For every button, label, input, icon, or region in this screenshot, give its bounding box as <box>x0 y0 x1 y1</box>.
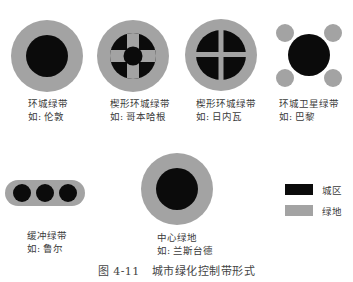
form-example: 如: 兰斯台德 <box>157 244 213 257</box>
form-satellite-green-belt <box>276 24 342 87</box>
form-name: 楔形环城绿带 <box>196 97 256 110</box>
label-wedge-ring-geneva: 楔形环城绿带 如: 日内瓦 <box>196 97 256 123</box>
form-example: 如: 巴黎 <box>279 110 339 123</box>
form-name: 楔形环城绿带 <box>110 97 170 110</box>
form-example: 如: 鲁尔 <box>27 242 67 255</box>
form-name: 中心绿地 <box>157 231 213 244</box>
figure-caption: 图 4-11 城市绿化控制带形式 <box>0 262 353 278</box>
legend-swatch-urban <box>285 184 313 195</box>
form-central-green <box>141 153 213 225</box>
label-buffer-green-belt: 缓冲绿带 如: 鲁尔 <box>27 229 67 255</box>
legend-label-urban: 城区 <box>322 183 342 197</box>
form-wedge-ring-geneva <box>185 19 257 91</box>
form-example: 如: 日内瓦 <box>196 110 256 123</box>
form-ring-green-belt <box>11 20 83 92</box>
legend-label-green: 绿地 <box>322 204 342 218</box>
label-satellite-green-belt: 环城卫星绿带 如: 巴黎 <box>279 97 339 123</box>
form-example: 如: 哥本哈根 <box>110 110 170 123</box>
label-wedge-ring-copenhagen: 楔形环城绿带 如: 哥本哈根 <box>110 97 170 123</box>
form-wedge-ring-copenhagen <box>97 20 169 92</box>
form-name: 缓冲绿带 <box>27 229 67 242</box>
form-name: 环城卫星绿带 <box>279 97 339 110</box>
form-name: 环城绿带 <box>28 97 68 110</box>
label-ring-green-belt: 环城绿带 如: 伦敦 <box>28 97 68 123</box>
form-buffer-green-belt <box>5 180 85 206</box>
form-example: 如: 伦敦 <box>28 110 68 123</box>
label-central-green: 中心绿地 如: 兰斯台德 <box>157 231 213 257</box>
legend-swatch-green <box>285 205 313 216</box>
